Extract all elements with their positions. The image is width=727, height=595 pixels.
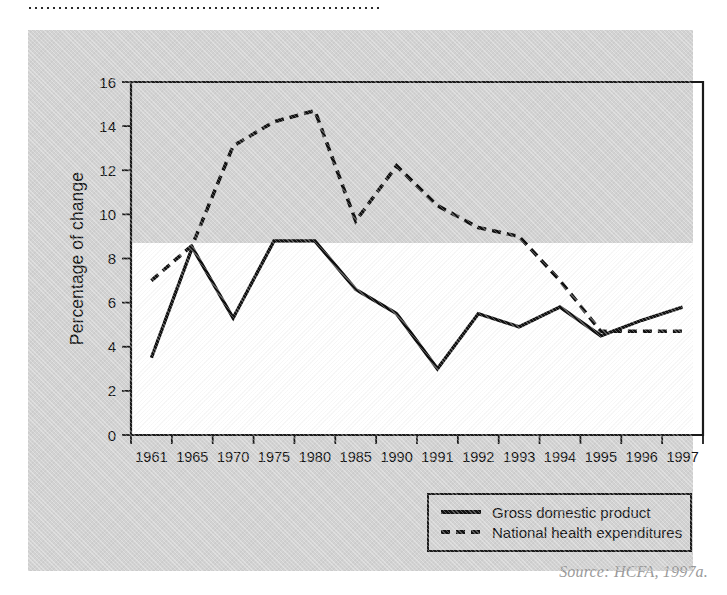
series-line-national-health-expenditures (151, 111, 682, 332)
series-line-gross-domestic-product (151, 241, 682, 369)
x-tick-label: 1975 (258, 449, 290, 465)
chart-legend: Gross domestic product National health e… (427, 493, 692, 552)
x-tick-label: 1991 (421, 449, 453, 465)
x-tick-label: 1997 (666, 449, 698, 465)
y-tick-label: 0 (108, 427, 116, 444)
x-tick-label: 1994 (544, 449, 576, 465)
legend-item-gross-domestic-product: Gross domestic product (439, 502, 680, 522)
source-note: Source: HCFA, 1997a. (428, 563, 708, 581)
axis-frame (131, 82, 703, 435)
y-tick-label: 10 (99, 206, 116, 223)
dotted-rule-divider (27, 5, 382, 9)
x-tick-label: 1961 (135, 449, 167, 465)
y-tick-label: 8 (108, 250, 116, 267)
x-tick-label: 1970 (217, 449, 249, 465)
x-tick-label: 1990 (380, 449, 412, 465)
x-tick-label: 1985 (340, 449, 372, 465)
figure-container: Percentage of change 0246810121416 19611… (0, 0, 727, 595)
y-tick-label: 4 (108, 338, 116, 355)
y-tick-label: 12 (99, 162, 116, 179)
x-tick-label: 1993 (503, 449, 535, 465)
chart-panel: Percentage of change 0246810121416 19611… (28, 30, 693, 571)
x-tick-label: 1995 (585, 449, 617, 465)
axes (131, 82, 703, 435)
y-tick-label: 16 (99, 74, 116, 91)
legend-key-dashed-line (439, 525, 483, 539)
x-axis-ticks: 1961196519701975198019851990199119921993… (131, 435, 703, 465)
legend-key-solid-line (439, 505, 483, 519)
data-series (151, 111, 682, 369)
legend-label: Gross domestic product (492, 504, 650, 521)
y-axis-ticks: 0246810121416 (99, 74, 131, 444)
legend-label: National health expenditures (492, 524, 682, 541)
y-tick-label: 2 (108, 382, 116, 399)
x-tick-label: 1965 (176, 449, 208, 465)
x-tick-label: 1996 (626, 449, 658, 465)
legend-item-national-health-expenditures: National health expenditures (439, 522, 680, 542)
x-tick-label: 1980 (299, 449, 331, 465)
y-tick-label: 14 (99, 118, 116, 135)
y-tick-label: 6 (108, 294, 116, 311)
x-tick-label: 1992 (462, 449, 494, 465)
